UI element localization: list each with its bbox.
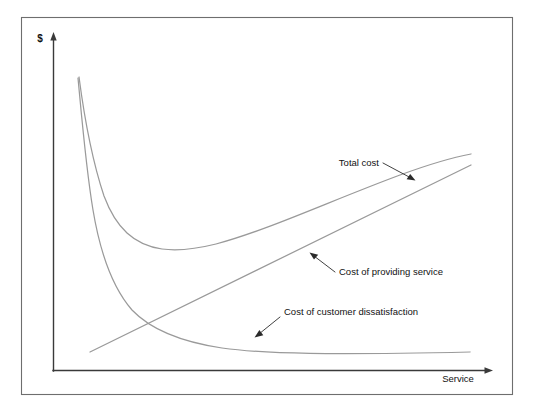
figure-border	[22, 18, 513, 395]
y-axis-label: $	[37, 33, 43, 44]
annotation-cost-of-providing-service: Cost of providing service	[339, 266, 443, 277]
x-axis-label: Service	[442, 373, 474, 384]
cost-tradeoff-chart: $ Service Total cost Cost of providing s…	[0, 0, 534, 413]
annotation-total-cost: Total cost	[339, 157, 379, 168]
figure-root: $ Service Total cost Cost of providing s…	[0, 0, 534, 413]
annotation-cost-of-customer-dissatisfaction: Cost of customer dissatisfaction	[284, 306, 418, 317]
